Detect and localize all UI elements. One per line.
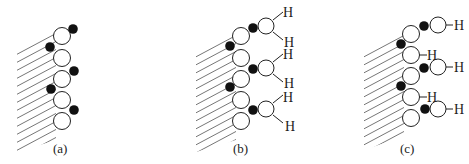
bonded-atom (258, 18, 274, 34)
adsorbate-atom (45, 42, 55, 52)
hydrogen-label: H (285, 119, 295, 134)
adsorbate-atom (68, 24, 78, 34)
surface-atom (233, 113, 250, 130)
surface-atom (233, 50, 250, 67)
adsorbate-atom (46, 84, 56, 94)
adsorbate-atom (396, 81, 406, 91)
adsorption-diagram: (a) (0, 0, 469, 164)
adsorbate-atom (225, 41, 235, 51)
adsorbate-atom (69, 66, 79, 76)
hydrogen-label: H (427, 90, 437, 105)
hydrogen-label: H (283, 47, 293, 62)
surface-atom (54, 28, 71, 45)
panel-c: H H H H H (c) (358, 17, 464, 164)
surface-atom (403, 89, 420, 106)
adsorbate-atom (248, 105, 258, 115)
surface-atom (403, 110, 420, 127)
bonded-atom (258, 101, 274, 117)
hydrogen-label: H (283, 5, 293, 20)
panel-b: H H H H H H (b) (190, 5, 295, 164)
panel-label-b: (b) (233, 141, 248, 156)
hydrogen-label: H (283, 90, 293, 105)
panel-a: (a) (10, 24, 79, 162)
surface-atom (403, 47, 420, 64)
adsorbate-atom (69, 105, 79, 115)
hydrogen-label: H (454, 102, 464, 117)
adsorbate-atom (419, 21, 429, 31)
bonded-atom (430, 17, 446, 33)
surface-atom (403, 26, 420, 43)
hydrogen-label: H (454, 18, 464, 33)
surface-atom (233, 92, 250, 109)
surface-atom (54, 50, 71, 67)
adsorbate-atom (420, 104, 430, 114)
surface-atom (54, 113, 71, 130)
surface-atom (54, 92, 71, 109)
surface-atom (233, 71, 250, 88)
panel-label-a: (a) (53, 141, 67, 156)
hydrogen-label: H (454, 60, 464, 75)
adsorbate-atom (419, 63, 429, 73)
surface-atom (233, 28, 250, 45)
adsorbate-atom (248, 64, 258, 74)
surface-atom (403, 68, 420, 85)
hydrogen-label: H (427, 48, 437, 63)
adsorbate-atom (248, 23, 258, 33)
surface-atom (54, 71, 71, 88)
hydrogen-label: H (284, 76, 294, 91)
adsorbate-atom (396, 39, 406, 49)
panel-label-c: (c) (400, 141, 414, 156)
adsorbate-atom (225, 82, 235, 92)
bonded-atom (258, 60, 274, 76)
